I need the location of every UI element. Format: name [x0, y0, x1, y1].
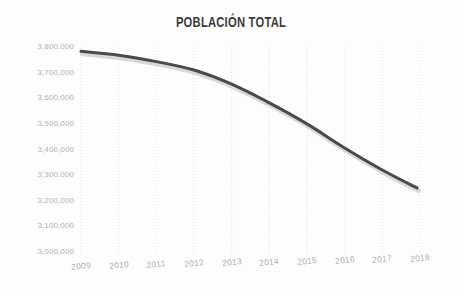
- y-tick-label: 3,100,000: [12, 221, 74, 230]
- data-line: [81, 51, 417, 188]
- y-tick-label: 3,400,000: [12, 145, 74, 154]
- y-tick-label: 3,000,000: [12, 247, 74, 256]
- y-tick-label: 3,500,000: [12, 119, 74, 128]
- data-line-shadow: [83, 54, 419, 191]
- vertical-gridlines: [81, 45, 420, 254]
- y-tick-label: 3,200,000: [12, 196, 74, 205]
- y-tick-label: 3,700,000: [12, 68, 74, 77]
- y-tick-label: 3,600,000: [12, 93, 74, 102]
- y-tick-label: 3,800,000: [12, 42, 74, 51]
- y-tick-label: 3,300,000: [12, 170, 74, 179]
- chart-container: POBLACIÓN TOTAL 3,800,0003,700,0003,600,…: [0, 0, 462, 289]
- data-line-group: [81, 51, 419, 190]
